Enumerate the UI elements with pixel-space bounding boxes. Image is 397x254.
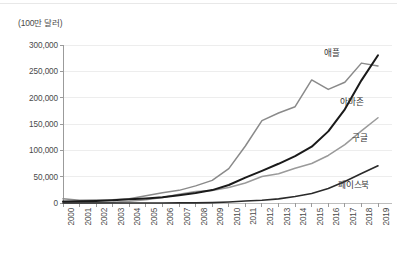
x-tick-label: 2006 [166, 208, 175, 225]
x-tick-label: 2013 [283, 208, 292, 225]
x-tick-label: 2016 [332, 208, 341, 225]
x-tick-label: 2008 [200, 208, 209, 225]
y-tick-label: 200,000 [10, 93, 58, 102]
x-tick-label: 2000 [67, 208, 76, 225]
series-label-facebook: 페이스북 [338, 178, 369, 190]
x-tick-label: 2012 [266, 208, 275, 225]
y-tick-label: 250,000 [10, 67, 58, 76]
x-tick-label: 2003 [117, 208, 126, 225]
x-tick-label: 2002 [100, 208, 109, 225]
x-tick-label: 2017 [349, 208, 358, 225]
y-tick-label: 100,000 [10, 146, 58, 155]
x-tick-label: 2001 [84, 208, 93, 225]
x-tick-label: 2011 [249, 208, 258, 225]
y-tick-label: 150,000 [10, 120, 58, 129]
x-tick-label: 2010 [233, 208, 242, 225]
y-tick-label: 300,000 [10, 41, 58, 50]
x-tick-label: 2019 [382, 208, 391, 225]
x-axis-tick-labels: 2000200120022003200420052006200720082009… [0, 208, 397, 254]
x-tick-label: 2007 [183, 208, 192, 225]
x-tick-label: 2009 [216, 208, 225, 225]
chart-container: (100만 달러) 050,000100,000150,000200,00025… [0, 0, 397, 254]
y-tick-label: 0 [10, 199, 58, 208]
y-tick-label: 50,000 [10, 172, 58, 181]
series-label-apple: 애플 [324, 46, 340, 58]
x-tick-label: 2014 [299, 208, 308, 225]
series-label-amazon: 아마존 [340, 95, 363, 107]
series-label-google: 구글 [352, 131, 368, 143]
x-tick-label: 2015 [316, 208, 325, 225]
x-tick-label: 2005 [150, 208, 159, 225]
x-tick-label: 2018 [365, 208, 374, 225]
x-tick-label: 2004 [133, 208, 142, 225]
